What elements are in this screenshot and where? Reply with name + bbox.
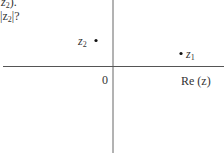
origin-label: 0 (102, 74, 108, 86)
question-line-2: |z2|? (0, 10, 19, 24)
real-axis-label: Re (z) (181, 75, 211, 87)
label-z2: z2 (78, 35, 87, 49)
point-z1 (179, 52, 182, 55)
label-z1: z1 (186, 48, 195, 62)
point-z2 (94, 39, 97, 42)
